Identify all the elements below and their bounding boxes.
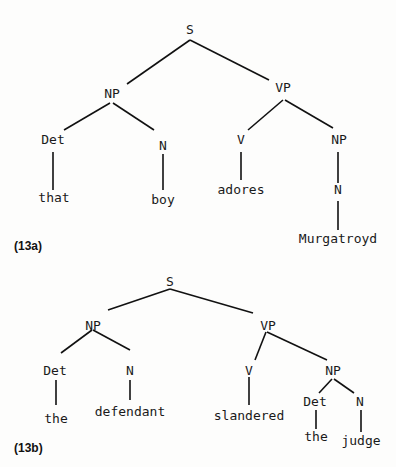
tree-13b-category-n2: N bbox=[356, 394, 364, 409]
tree-13a-word-that: that bbox=[38, 190, 69, 205]
tree-13b-word-defendant: defendant bbox=[95, 404, 165, 419]
tree-13b-category-vp: VP bbox=[260, 318, 276, 333]
tree-13b-category-s: S bbox=[166, 274, 174, 289]
tree-13b-edge-np2-to-det2 bbox=[319, 379, 332, 393]
tree-13a-word-boy: boy bbox=[151, 192, 175, 207]
tree-13a-category-s: S bbox=[186, 22, 194, 37]
tree-13b-word-the2: the bbox=[304, 429, 328, 444]
tree-13a-category-np2: NP bbox=[331, 132, 347, 147]
tree-13a-edge-vp-to-v bbox=[248, 100, 283, 130]
tree-13a-category-n2: N bbox=[334, 182, 342, 197]
tree-13b-word-the1: the bbox=[44, 411, 68, 426]
tree-13b-edge-s-to-vp bbox=[170, 289, 253, 313]
tree-13b-edge-vp-to-v bbox=[255, 332, 266, 360]
tree-13a-edge-s-to-np1 bbox=[127, 40, 190, 84]
tree-13a-category-vp: VP bbox=[275, 80, 291, 95]
tree-13a-edge-s-to-vp bbox=[190, 40, 269, 80]
tree-13b-category-det2: Det bbox=[303, 394, 326, 409]
tree-13a-caption: (13a) bbox=[14, 239, 42, 253]
tree-13b-caption: (13b) bbox=[14, 441, 43, 455]
tree-13b-edge-np1-to-n1 bbox=[93, 330, 130, 350]
tree-13a-category-v: V bbox=[237, 132, 245, 147]
syntax-tree-diagram: SNPVPDetNthatboyVNPadoresNMurgatroyd(13a… bbox=[0, 0, 396, 467]
tree-13a-category-np1: NP bbox=[104, 86, 120, 101]
tree-13a-category-det1: Det bbox=[41, 132, 64, 147]
tree-13b-edge-s-to-np1 bbox=[108, 289, 170, 310]
tree-13b-word-judge: judge bbox=[341, 433, 380, 448]
tree-13b-category-det1: Det bbox=[43, 363, 66, 378]
tree-13b-edge-np1-to-det1 bbox=[61, 330, 92, 353]
tree-13b-category-np2: NP bbox=[325, 363, 341, 378]
tree-13a-edge-np1-to-det1 bbox=[64, 103, 110, 130]
tree-13a-edge-np1-to-n1 bbox=[113, 103, 154, 130]
tree-13b-edge-vp-to-np2 bbox=[267, 332, 327, 360]
tree-13b-word-slandered: slandered bbox=[214, 408, 284, 423]
tree-13a-category-n1: N bbox=[159, 138, 167, 153]
tree-13a-word-murgatroyd: Murgatroyd bbox=[299, 231, 377, 246]
tree-13a-word-adores: adores bbox=[218, 182, 265, 197]
tree-13b-category-n1: N bbox=[126, 363, 134, 378]
tree-13b-category-v: V bbox=[245, 363, 253, 378]
tree-13a-edge-vp-to-np2 bbox=[285, 100, 333, 128]
tree-13b-edge-np2-to-n2 bbox=[334, 379, 354, 393]
tree-13b-category-np1: NP bbox=[85, 318, 101, 333]
